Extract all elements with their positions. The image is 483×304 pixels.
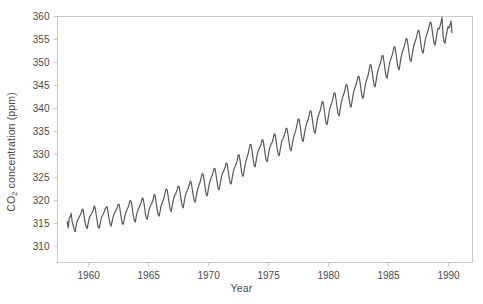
svg-text:1975: 1975 xyxy=(257,270,280,281)
svg-text:310: 310 xyxy=(33,241,50,252)
svg-text:350: 350 xyxy=(33,57,50,68)
svg-text:360: 360 xyxy=(33,11,50,22)
svg-text:340: 340 xyxy=(33,103,50,114)
svg-text:325: 325 xyxy=(33,172,50,183)
svg-text:1960: 1960 xyxy=(78,270,101,281)
x-axis-label: Year xyxy=(0,282,483,294)
axis-ticks xyxy=(54,17,449,267)
svg-text:1965: 1965 xyxy=(138,270,161,281)
data-series-line xyxy=(67,17,452,231)
svg-text:1980: 1980 xyxy=(317,270,340,281)
chart-container: 3103153203253303353403453503553601960196… xyxy=(0,0,483,304)
svg-text:320: 320 xyxy=(33,195,50,206)
plot-frame xyxy=(58,17,473,263)
svg-text:1990: 1990 xyxy=(437,270,460,281)
svg-text:1985: 1985 xyxy=(377,270,400,281)
svg-text:335: 335 xyxy=(33,126,50,137)
svg-text:355: 355 xyxy=(33,34,50,45)
svg-text:330: 330 xyxy=(33,149,50,160)
svg-text:315: 315 xyxy=(33,218,50,229)
svg-text:1970: 1970 xyxy=(198,270,221,281)
svg-text:345: 345 xyxy=(33,80,50,91)
chart-plot: 3103153203253303353403453503553601960196… xyxy=(0,0,483,304)
